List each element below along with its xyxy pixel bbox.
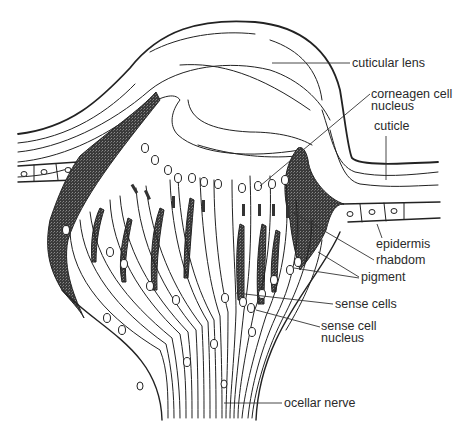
label-ocellar-nerve: ocellar nerve [284,396,356,410]
leader-corneagen-cell-nucleus [260,94,370,186]
label-cuticular-lens: cuticular lens [352,56,425,70]
label-rhabdom: rhabdom [376,253,425,267]
leader-pigment-1 [318,252,359,277]
pigment [48,92,344,318]
label-sense-cells: sense cells [335,297,397,311]
label-cuticle: cuticle [374,119,409,133]
leader-pigment-2 [294,268,359,278]
label-pigment: pigment [361,270,406,284]
label-corneagen-cell-nucleus: corneagen cell nucleus [371,87,456,113]
ocellus-diagram: cuticular lens corneagen cell nucleus cu… [0,0,476,433]
leader-epidermis [377,224,382,238]
label-sense-cell-nucleus: sense cell nucleus [321,319,380,345]
leader-sense-cells [236,293,333,304]
rhabdoms [131,184,289,218]
label-epidermis: epidermis [376,237,430,251]
